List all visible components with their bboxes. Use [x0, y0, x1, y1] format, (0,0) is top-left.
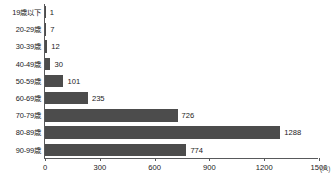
- bar-row: 19歳以下1: [0, 4, 334, 21]
- bar: [45, 40, 47, 52]
- bar-track: 12: [45, 40, 319, 52]
- x-axis-tick-label: 300: [93, 163, 106, 173]
- bar-value-label: 1288: [284, 127, 301, 138]
- x-axis-tick-label: 0: [43, 163, 47, 173]
- bar-track: 774: [45, 144, 319, 156]
- x-axis-unit-label: (人): [320, 164, 330, 173]
- bar-track: 30: [45, 58, 319, 70]
- category-label: 90-99歳: [0, 146, 41, 155]
- bar-track: 726: [45, 109, 319, 121]
- bar-chart: 19歳以下120-29歳730-39歳1240-49歳3050-59歳10160…: [0, 0, 334, 181]
- bar: [45, 58, 50, 70]
- bar-track: 1288: [45, 126, 319, 138]
- bar-row: 50-59歳101: [0, 73, 334, 90]
- bar-rows: 19歳以下120-29歳730-39歳1240-49歳3050-59歳10160…: [0, 0, 334, 156]
- x-axis-tick: [100, 158, 101, 161]
- bar: [45, 92, 88, 104]
- bar-track: 1: [45, 6, 319, 18]
- category-label: 80-89歳: [0, 128, 41, 137]
- bar-track: 235: [45, 92, 319, 104]
- x-axis-tick: [45, 158, 46, 161]
- x-axis-tick-label: 600: [148, 163, 161, 173]
- bar-value-label: 30: [54, 59, 62, 70]
- bar-value-label: 774: [190, 145, 203, 156]
- bar-value-label: 726: [182, 110, 195, 121]
- bar: [45, 144, 186, 156]
- bar-row: 60-69歳235: [0, 90, 334, 107]
- bar-value-label: 7: [50, 24, 54, 35]
- bar: [45, 6, 46, 18]
- bar-row: 30-39歳12: [0, 38, 334, 55]
- bar-value-label: 235: [92, 93, 105, 104]
- bar: [45, 75, 63, 87]
- bar: [45, 109, 178, 121]
- x-axis-tick: [264, 158, 265, 161]
- bar-track: 101: [45, 75, 319, 87]
- x-axis-tick: [319, 158, 320, 161]
- x-axis-tick-label: 1200: [256, 163, 273, 173]
- category-label: 60-69歳: [0, 94, 41, 103]
- bar-value-label: 12: [51, 41, 59, 52]
- bar: [45, 23, 46, 35]
- bar-row: 20-29歳7: [0, 21, 334, 38]
- category-label: 30-39歳: [0, 42, 41, 51]
- bar-row: 90-99歳774: [0, 142, 334, 159]
- category-label: 20-29歳: [0, 25, 41, 34]
- bar-row: 80-89歳1288: [0, 124, 334, 141]
- x-axis-tick: [209, 158, 210, 161]
- bar-row: 70-79歳726: [0, 107, 334, 124]
- category-label: 40-49歳: [0, 60, 41, 69]
- x-axis-tick-label: 900: [203, 163, 216, 173]
- x-axis-tick: [155, 158, 156, 161]
- category-label: 70-79歳: [0, 111, 41, 120]
- bar-track: 7: [45, 23, 319, 35]
- bar-value-label: 1: [50, 7, 54, 18]
- category-label: 50-59歳: [0, 77, 41, 86]
- bar-row: 40-49歳30: [0, 56, 334, 73]
- category-label: 19歳以下: [0, 8, 41, 17]
- bar: [45, 126, 280, 138]
- bar-value-label: 101: [67, 76, 80, 87]
